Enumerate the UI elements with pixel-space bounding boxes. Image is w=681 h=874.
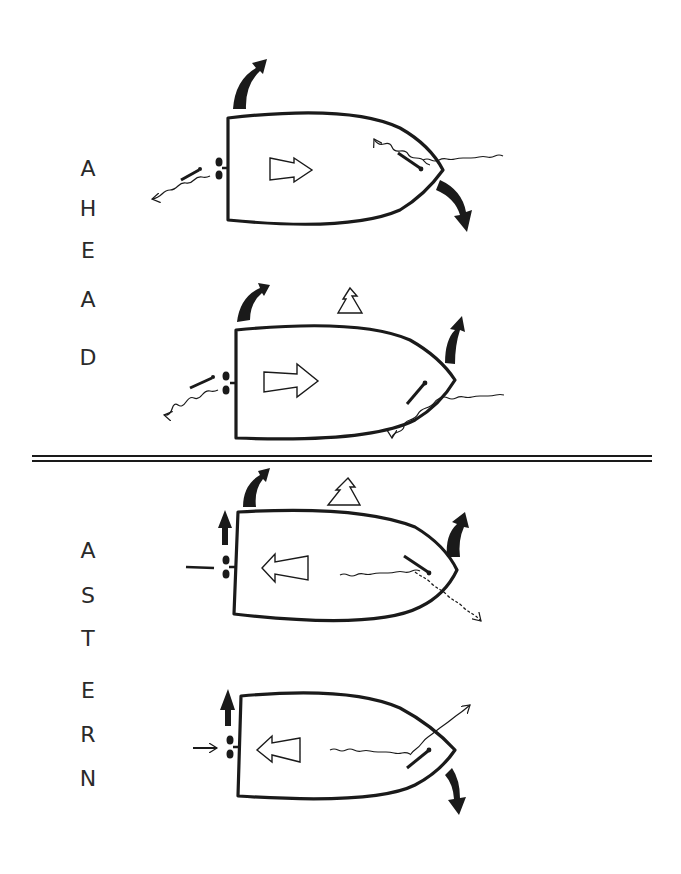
bow-swing-arrow-icon [447, 512, 469, 557]
section-divider [32, 456, 652, 461]
hull [236, 326, 455, 439]
bow-swing-arrow-icon [436, 180, 472, 232]
water-flow-icon [440, 395, 504, 400]
side-marker-triangle-icon [338, 288, 362, 313]
hull [238, 693, 455, 799]
propeller-icon [223, 372, 237, 395]
bow-swing-arrow-icon [445, 316, 465, 364]
hull [234, 510, 457, 620]
propeller-icon [216, 158, 229, 180]
stern-swing-arrow-icon [237, 283, 270, 322]
diagram-canvas [0, 0, 681, 874]
boat-astern-2 [193, 689, 470, 815]
bow-swing-arrow-icon [445, 768, 466, 815]
hull [228, 113, 443, 224]
side-marker-triangle-icon [328, 478, 360, 505]
boat-ahead-1 [152, 59, 503, 232]
stern-swing-arrow-icon [233, 59, 267, 109]
boat-ahead-2 [164, 283, 504, 439]
boat-astern-1 [186, 468, 481, 621]
stern-side-arrow-up-icon [220, 689, 235, 726]
stern-swing-arrow-icon [243, 468, 270, 507]
stern-side-arrow-up-icon [218, 510, 232, 545]
wake-flow-icon [164, 390, 218, 415]
